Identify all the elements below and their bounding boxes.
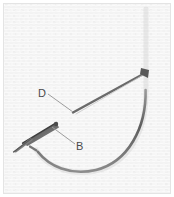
label-b: B <box>76 140 83 152</box>
hook-barb-tip <box>54 122 58 126</box>
hook-diagram-svg: D B <box>0 0 174 197</box>
label-d: D <box>38 87 46 99</box>
hook-figure: D B <box>0 0 174 197</box>
